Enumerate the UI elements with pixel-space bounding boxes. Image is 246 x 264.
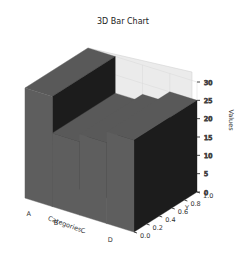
z-tick-label: 20: [204, 115, 212, 123]
y-tick-label: 0.4: [165, 216, 175, 224]
y-tick-label: 0.2: [153, 224, 163, 232]
z-tick-label: 30: [204, 79, 212, 87]
bar-C-front: [80, 134, 107, 223]
z-axis-label: Values: [227, 109, 235, 131]
bar-A-front: [25, 88, 52, 207]
x-axis-label: Categories: [47, 214, 83, 234]
z-tick-label: 15: [204, 134, 212, 142]
z-tick-label: 5: [204, 170, 208, 178]
chart-title: 3D Bar Chart: [97, 17, 149, 26]
y-tick-label: 0.0: [140, 232, 150, 240]
x-tick-label: D: [108, 236, 113, 244]
y-axis-label: Y: [184, 204, 189, 212]
bar-chart-3d: 3D Bar Chart 051015202530 Values 0.00.20…: [0, 0, 246, 264]
z-tick-label: 10: [204, 152, 212, 160]
z-axis: 051015202530: [197, 79, 212, 197]
x-tick-label: A: [26, 210, 31, 218]
y-tick-label: 1.0: [203, 192, 213, 200]
bar-B-front: [52, 133, 79, 215]
y-tick-label: 0.8: [190, 200, 200, 208]
z-tick-label: 25: [204, 97, 212, 105]
bar-D-front: [107, 132, 134, 232]
